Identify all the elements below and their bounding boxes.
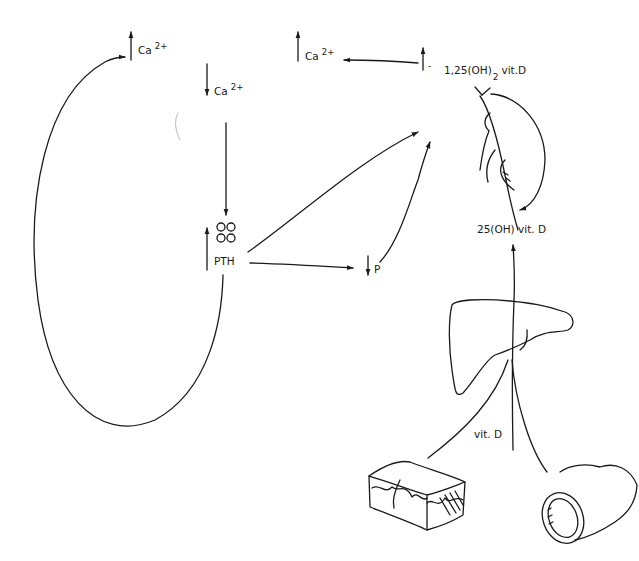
ca-base: Ca: [305, 50, 319, 62]
pth-to-kidney-arrow: [248, 132, 418, 252]
ca-up-right-label: Ca2+: [305, 51, 334, 62]
phosphate-label: P: [374, 264, 380, 275]
skin-icon: [369, 462, 465, 530]
pth-label: PTH: [214, 256, 235, 267]
ca-down-label: Ca2+: [214, 86, 243, 97]
phosphate-to-kidney-arrow: [380, 142, 430, 262]
calcitriol-sign: -: [428, 62, 431, 71]
skin-to-liver-arrow: [428, 360, 508, 458]
feedback-loop-arrow: [34, 57, 223, 426]
calcitriol-suffix: vit.D: [501, 64, 526, 76]
ca-charge: 2+: [322, 47, 335, 57]
diagram-canvas: [0, 0, 639, 561]
calcitriol-subscript: 2: [493, 72, 499, 82]
intestine-icon: [535, 465, 637, 549]
pth-to-phosphate-arrow: [250, 263, 353, 268]
kidney-icon: [475, 87, 545, 230]
liver-icon: [449, 300, 573, 395]
calcidiol-label: 25(OH) vit. D: [477, 224, 546, 235]
calcitriol-prefix: 1,25(OH): [444, 64, 492, 76]
four-circles-icon: [217, 223, 235, 242]
intestine-to-liver-arrow: [512, 360, 547, 472]
ca-base: Ca: [138, 44, 152, 56]
vitd-label: vit. D: [474, 429, 502, 440]
ca-charge: 2+: [231, 82, 244, 92]
scan-artifact: [176, 113, 180, 140]
ca-base: Ca: [214, 85, 228, 97]
ca-charge: 2+: [155, 41, 168, 51]
ca-up-left-label: Ca2+: [138, 45, 167, 56]
calcitriol-to-ca-arrow: [344, 60, 418, 63]
calcitriol-label: 1,25(OH)2vit.D: [444, 65, 526, 76]
